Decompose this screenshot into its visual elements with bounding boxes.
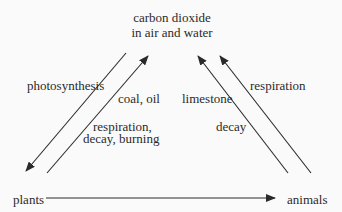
plants-to-co2-arrow xyxy=(47,56,148,173)
limestone-label: limestone xyxy=(182,91,233,106)
animal-respiration-arrow xyxy=(220,56,311,173)
animals-label: animals xyxy=(287,192,327,207)
respiration-label-line2: decay, burning xyxy=(83,131,160,146)
co2-label-line2: in air and water xyxy=(131,25,213,40)
carbon-cycle-diagram: carbon dioxide in air and water plants a… xyxy=(0,0,342,212)
photosynthesis-arrow xyxy=(26,53,126,171)
coal-oil-label: coal, oil xyxy=(118,91,160,106)
limestone-decay-arrow xyxy=(198,56,288,173)
photosynthesis-label: photosynthesis xyxy=(27,78,104,93)
decay-label: decay xyxy=(216,119,247,134)
co2-label-line1: carbon dioxide xyxy=(133,10,211,25)
animal-respiration-label: respiration xyxy=(250,78,306,93)
plants-label: plants xyxy=(13,192,44,207)
